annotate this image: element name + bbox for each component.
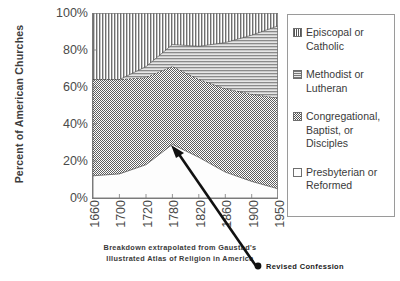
y-axis-title: Percent of American Churches xyxy=(13,0,25,209)
x-tick-1720: 1720 xyxy=(141,200,155,246)
plain-swatch-icon xyxy=(293,168,302,177)
legend-item-episcopal[interactable]: Episcopal or Catholic xyxy=(293,26,390,53)
y-tick-100: 100% xyxy=(40,6,88,20)
x-tick-1660: 1660 xyxy=(88,200,102,246)
x-tick-1950: 1950 xyxy=(273,200,287,246)
checker-swatch-icon xyxy=(293,112,302,121)
x-tick-1860: 1860 xyxy=(220,200,234,246)
y-tick-40: 40% xyxy=(40,117,88,131)
legend-label-presbyterian: Presbyterian or Reformed xyxy=(306,166,390,193)
vertical-stripes-swatch-icon xyxy=(293,28,302,37)
chart-footnote: Breakdown extrapolated from Gaustad's Il… xyxy=(72,243,288,264)
plot-area xyxy=(92,13,278,199)
footnote-line-2: Illustrated Atlas of Religion in America xyxy=(72,254,288,265)
legend-item-presbyterian[interactable]: Presbyterian or Reformed xyxy=(293,166,390,193)
y-tick-60: 60% xyxy=(40,80,88,94)
footnote-line-1: Breakdown extrapolated from Gaustad's xyxy=(72,243,288,254)
y-tick-20: 20% xyxy=(40,154,88,168)
y-tick-0: 0% xyxy=(40,191,88,205)
legend-label-episcopal: Episcopal or Catholic xyxy=(306,26,390,53)
x-axis-tick-labels: 1660 1700 1720 1780 1820 1860 1900 1950 xyxy=(92,200,292,246)
y-axis-tick-labels: 100% 80% 60% 40% 20% 0% xyxy=(36,0,88,210)
x-tick-1780: 1780 xyxy=(167,200,181,246)
x-tick-1700: 1700 xyxy=(114,200,128,246)
stacked-area-chart: Percent of American Churches 100% 80% 60… xyxy=(0,0,400,281)
x-tick-1820: 1820 xyxy=(194,200,208,246)
chart-legend: Episcopal or Catholic Methodist or Luthe… xyxy=(287,14,395,217)
y-tick-80: 80% xyxy=(40,43,88,57)
legend-item-congregational[interactable]: Congregational, Baptist, or Disciples xyxy=(293,110,390,151)
x-tick-1900: 1900 xyxy=(247,200,261,246)
legend-label-congregational: Congregational, Baptist, or Disciples xyxy=(306,110,390,151)
legend-label-methodist: Methodist or Lutheran xyxy=(306,68,390,95)
horizontal-stripes-swatch-icon xyxy=(293,70,302,79)
legend-item-methodist[interactable]: Methodist or Lutheran xyxy=(293,68,390,95)
area-series-svg xyxy=(93,13,278,198)
annotation-label: Revised Confession xyxy=(266,262,344,271)
